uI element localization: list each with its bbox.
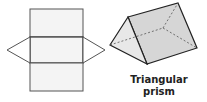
solid-label-line2: prism	[124, 86, 194, 98]
triangular-prism	[110, 3, 197, 64]
solid-label: Triangular prism	[124, 74, 194, 98]
net-rectangle-top	[30, 9, 83, 37]
solid-label-line1: Triangular	[124, 74, 194, 86]
net-rectangle-middle	[30, 37, 83, 63]
net-rectangle-bottom	[30, 63, 83, 91]
net-triangle-right	[83, 37, 105, 63]
prism-net	[7, 9, 105, 91]
net-triangle-left	[7, 37, 30, 63]
